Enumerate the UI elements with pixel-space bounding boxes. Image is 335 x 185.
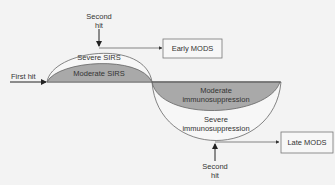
- moderate-immunosuppression-label-1: Moderate: [200, 86, 232, 95]
- first-hit-label: First hit: [11, 72, 37, 81]
- late-mods-label: Late MODS: [287, 138, 326, 147]
- severe-immunosuppression-label-1: Severe: [204, 115, 228, 124]
- moderate-immunosuppression-label-2: immunosuppression: [182, 95, 249, 104]
- severe-sirs-label: Severe SIRS: [77, 53, 120, 62]
- severe-immunosuppression-label-2: immunosuppression: [182, 124, 249, 133]
- early-mods-label: Early MODS: [172, 44, 214, 53]
- second-hit-top-label-2: hit: [95, 21, 104, 30]
- second-hit-bottom-label-2: hit: [211, 171, 220, 180]
- second-hit-top-label-1: Second: [86, 12, 111, 21]
- second-hit-bottom-label-1: Second: [202, 162, 227, 171]
- sirs-mods-diagram: First hit Second hit Severe SIRS Moderat…: [0, 0, 335, 185]
- moderate-sirs-label: Moderate SIRS: [73, 69, 124, 78]
